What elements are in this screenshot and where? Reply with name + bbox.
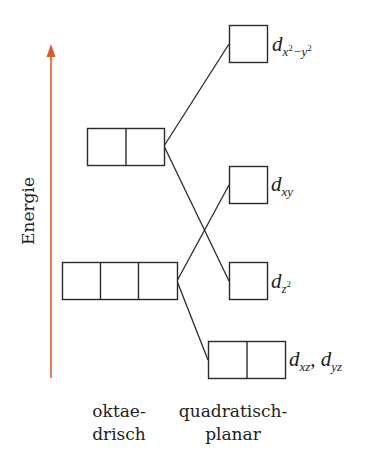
level-dxz-dyz: dxz, dyz	[209, 342, 343, 379]
energy-arrow-head	[47, 44, 56, 57]
connector-eg-to-dz2	[164, 146, 229, 281]
orbital-box	[230, 263, 268, 300]
group-label-octahedral-line1: oktae-	[92, 401, 145, 421]
connector-t2g-to-dxy	[177, 185, 229, 281]
connector-t2g-to-dxz-dyz	[177, 281, 208, 360]
connector-eg-to-dx2y2	[164, 44, 229, 146]
orbital-box	[230, 26, 268, 63]
crystal-field-diagram: Energie dx2−y2 dxy dz2 dxz,	[0, 0, 381, 464]
label-dx2-y2: dx2−y2	[272, 32, 312, 59]
group-label-square-planar-line2: planar	[205, 424, 262, 444]
level-octahedral-t2g	[63, 263, 178, 300]
energy-axis-label: Energie	[18, 177, 38, 245]
orbital-box	[230, 167, 268, 204]
label-dz2: dz2	[271, 269, 291, 296]
group-label-octahedral-line2: drisch	[92, 424, 146, 444]
label-dxy: dxy	[271, 172, 293, 199]
level-dxy: dxy	[230, 167, 294, 204]
level-dz2: dz2	[230, 263, 292, 300]
level-dx2-y2: dx2−y2	[230, 26, 312, 63]
group-label-square-planar-line1: quadratisch-	[179, 401, 287, 421]
orbital-box	[63, 263, 178, 300]
level-octahedral-eg	[88, 129, 165, 166]
label-dxz-dyz: dxz, dyz	[289, 347, 342, 374]
